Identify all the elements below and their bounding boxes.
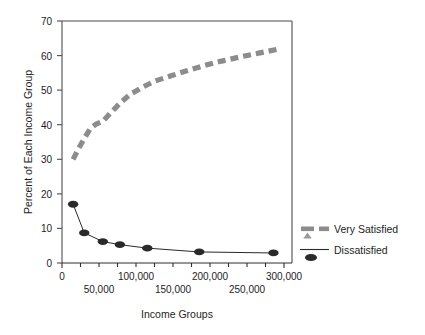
data-point (98, 238, 108, 245)
series-line (73, 204, 273, 253)
y-tick-label: 70 (41, 16, 53, 27)
chart-legend: Very Satisfied Dissatisfied (300, 223, 398, 262)
y-tick-label: 30 (41, 154, 53, 165)
y-tick-label: 20 (41, 189, 53, 200)
data-series-layer (68, 49, 279, 256)
y-tick-label: 40 (41, 120, 53, 131)
data-point (194, 249, 204, 256)
legend-marker-very-satisfied (301, 227, 329, 239)
y-tick-label: 50 (41, 85, 53, 96)
x-tick-label: 50,000 (84, 284, 115, 295)
x-tick-label: 150,000 (155, 284, 192, 295)
x-tick-label: 250,000 (229, 284, 266, 295)
y-axis-tick-labels: 70 60 50 40 30 20 10 0 (41, 16, 53, 269)
legend-marker-dissatisfied (300, 250, 329, 262)
y-tick-label: 10 (41, 223, 53, 234)
x-tick-label: 0 (59, 271, 65, 282)
data-point (68, 201, 78, 208)
series-very-satisfied (73, 49, 277, 159)
chart-figure: 70 60 50 40 30 20 10 0 Percent of Each I… (0, 0, 425, 335)
y-tick-label: 60 (41, 51, 53, 62)
series-dissatisfied (68, 201, 279, 257)
x-tick-label: 200,000 (192, 271, 229, 282)
line-chart-canvas: 70 60 50 40 30 20 10 0 Percent of Each I… (0, 0, 425, 335)
legend-label-very-satisfied: Very Satisfied (334, 223, 398, 235)
y-tick-label: 0 (46, 258, 52, 269)
x-tick-label: 100,000 (118, 271, 155, 282)
series-line (73, 49, 277, 159)
y-axis-title: Percent of Each Income Group (22, 70, 34, 214)
data-point (115, 241, 125, 248)
x-axis-title: Income Groups (141, 308, 213, 320)
x-axis-tick-labels-upper: 0 100,000 200,000 300,000 (59, 271, 302, 282)
x-axis-ticks (62, 263, 284, 268)
x-tick-label: 300,000 (266, 271, 303, 282)
plot-frame (62, 21, 292, 263)
data-point (268, 250, 278, 257)
legend-label-dissatisfied: Dissatisfied (334, 244, 388, 256)
x-axis-tick-labels-lower: 50,000 150,000 250,000 (84, 284, 266, 295)
data-point (79, 230, 89, 237)
y-axis-ticks (57, 21, 62, 263)
data-point (142, 245, 152, 252)
